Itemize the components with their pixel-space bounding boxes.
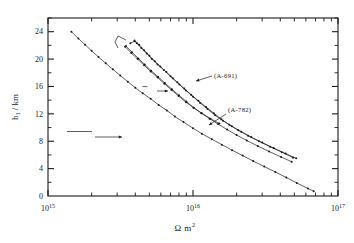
data-point [226, 129, 228, 131]
data-point [112, 68, 114, 70]
data-point [192, 127, 194, 129]
data-point [134, 40, 136, 42]
data-point [209, 118, 211, 120]
data-point [268, 151, 270, 153]
data-point [157, 77, 159, 79]
data-point [70, 31, 72, 33]
data-point [221, 144, 223, 146]
data-point [119, 75, 121, 77]
data-point [274, 171, 276, 173]
data-point [231, 149, 233, 151]
data-point [231, 125, 233, 127]
data-point [240, 131, 242, 133]
data-point [127, 81, 129, 83]
data-point [163, 83, 165, 85]
annotation-a691-label: (A-691) [214, 72, 237, 80]
data-point [296, 182, 298, 184]
data-point [159, 66, 161, 68]
y-tick-label: 4 [39, 164, 43, 173]
data-point [183, 121, 185, 123]
y-axis-title-units: / km [10, 94, 20, 113]
data-point [185, 101, 187, 103]
data-point [134, 87, 136, 89]
data-point [252, 160, 254, 162]
data-point [295, 157, 297, 159]
data-point [150, 98, 152, 100]
figure-root: 101510161017 4812162024 0 (A-691)(A-782)… [0, 0, 354, 243]
data-point [285, 153, 287, 155]
data-point [143, 64, 145, 66]
data-point [218, 122, 220, 124]
y-tick-label: 16 [35, 82, 43, 91]
data-point [263, 166, 265, 168]
data-point [280, 156, 282, 158]
data-point [148, 55, 150, 57]
data-point [192, 96, 194, 98]
data-point [273, 147, 275, 149]
data-point [185, 90, 187, 92]
data-point [178, 83, 180, 85]
data-point [142, 92, 144, 94]
y-axis-title: h1 / km [10, 94, 21, 120]
data-point [242, 155, 244, 157]
data-point [199, 102, 201, 104]
data-point [246, 140, 248, 142]
data-point [291, 161, 293, 163]
data-point [98, 56, 100, 58]
data-point [105, 62, 107, 64]
data-point [211, 138, 213, 140]
origin-label: 0 [39, 192, 43, 201]
x-tick-label-exponent: 17 [339, 203, 345, 209]
annotation-a782-label: (A-782) [228, 106, 251, 114]
data-point [207, 108, 209, 110]
data-point [261, 142, 263, 144]
data-point [124, 46, 126, 48]
origin-label-text: 0 [39, 192, 43, 201]
chart-canvas: 101510161017 4812162024 0 (A-691)(A-782)… [0, 0, 354, 243]
y-tick-label: 8 [39, 137, 43, 146]
data-point [172, 77, 174, 79]
data-point [154, 60, 156, 62]
data-point [138, 44, 140, 46]
data-point [201, 133, 203, 135]
data-point [77, 38, 79, 40]
y-tick-label: 12 [35, 110, 43, 119]
data-point [166, 109, 168, 111]
data-point [137, 58, 139, 60]
data-point [129, 42, 131, 44]
data-point [250, 136, 252, 138]
data-point [158, 104, 160, 106]
data-point [143, 49, 145, 51]
data-point [170, 89, 172, 91]
x-tick-label-exponent: 16 [194, 203, 200, 209]
data-point [313, 190, 315, 192]
data-point [307, 187, 309, 189]
data-point [91, 50, 93, 52]
data-point [174, 116, 176, 118]
data-point [285, 177, 287, 179]
data-point [150, 70, 152, 72]
data-point [257, 145, 259, 147]
data-point [193, 107, 195, 109]
data-point [84, 44, 86, 46]
y-tick-label: 20 [35, 55, 43, 64]
data-point [222, 120, 224, 122]
data-point [236, 134, 238, 136]
data-point [201, 112, 203, 114]
data-point [130, 52, 132, 54]
data-point [214, 114, 216, 116]
data-point [178, 95, 180, 97]
data-point [165, 71, 167, 73]
x-axis-title-exponent: 2 [192, 221, 196, 228]
x-tick-label-exponent: 15 [49, 203, 55, 209]
y-tick-label: 24 [35, 27, 43, 36]
